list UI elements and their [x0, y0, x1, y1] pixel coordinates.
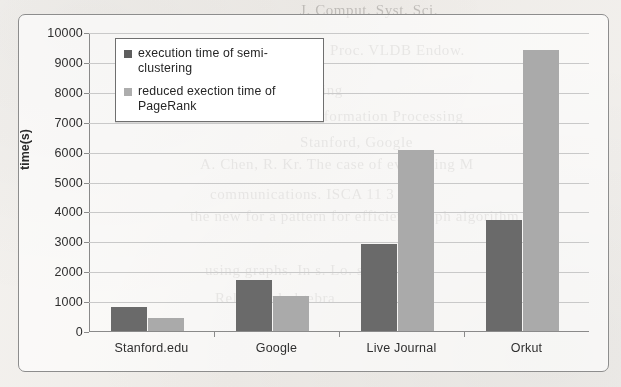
- gridline: [89, 183, 589, 184]
- y-axis-tick: [84, 272, 89, 273]
- y-axis-tick: [84, 332, 89, 333]
- y-axis-tick-labels: 0100020003000400050006000700080009000100…: [37, 33, 83, 332]
- x-axis-tick-labels: Stanford.eduGoogleLive JournalOrkut: [89, 337, 589, 361]
- y-axis-tick: [84, 93, 89, 94]
- y-axis-tick-label: 2000: [54, 265, 83, 279]
- y-axis-tick-label: 8000: [54, 86, 83, 100]
- x-axis-category-label: Live Journal: [367, 341, 437, 355]
- y-axis-tick: [84, 123, 89, 124]
- bar-series1: [361, 244, 397, 331]
- legend-item: reduced exection time of PageRank: [124, 84, 314, 113]
- y-axis-tick-label: 6000: [54, 146, 83, 160]
- y-axis-tick: [84, 153, 89, 154]
- bar-series1: [111, 307, 147, 331]
- chart-container: time(s) 01000200030004000500060007000800…: [18, 14, 609, 372]
- y-axis-tick-label: 9000: [54, 56, 83, 70]
- bar-series1: [236, 280, 272, 331]
- y-axis-tick: [84, 33, 89, 34]
- bar-series2: [398, 150, 434, 331]
- bar-series2: [523, 50, 559, 331]
- gridline: [89, 212, 589, 213]
- gridline: [89, 33, 589, 34]
- y-axis-title: time(s): [18, 129, 32, 170]
- gridline: [89, 123, 589, 124]
- y-axis-tick-label: 1000: [54, 295, 83, 309]
- chart-legend: execution time of semi-clustering reduce…: [115, 38, 324, 122]
- y-axis-tick: [84, 183, 89, 184]
- legend-swatch-icon: [124, 50, 132, 58]
- y-axis-tick: [84, 302, 89, 303]
- y-axis-tick-label: 3000: [54, 235, 83, 249]
- x-axis-category-label: Stanford.edu: [115, 341, 189, 355]
- bar-series2: [273, 296, 309, 331]
- legend-item-label: execution time of semi-clustering: [138, 46, 314, 75]
- y-axis-tick-label: 10000: [47, 26, 83, 40]
- x-axis-category-label: Orkut: [511, 341, 543, 355]
- gridline: [89, 153, 589, 154]
- y-axis-tick-label: 5000: [54, 176, 83, 190]
- bar-series2: [148, 318, 184, 331]
- bar-series1: [486, 220, 522, 331]
- y-axis-tick: [84, 63, 89, 64]
- legend-item: execution time of semi-clustering: [124, 46, 314, 75]
- x-axis-category-label: Google: [256, 341, 298, 355]
- y-axis-tick-label: 0: [76, 325, 83, 339]
- y-axis-tick-label: 4000: [54, 205, 83, 219]
- y-axis-tick: [84, 212, 89, 213]
- y-axis-tick: [84, 242, 89, 243]
- legend-item-label: reduced exection time of PageRank: [138, 84, 314, 113]
- legend-swatch-icon: [124, 88, 132, 96]
- y-axis-tick-label: 7000: [54, 116, 83, 130]
